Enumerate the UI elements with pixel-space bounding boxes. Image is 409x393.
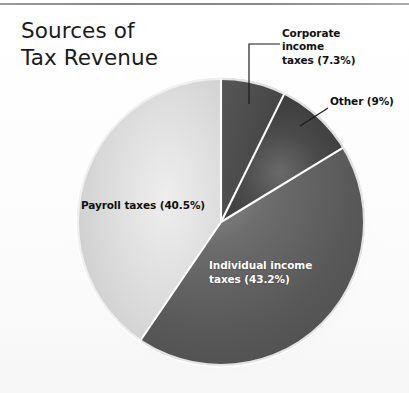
slice-label-other: Other (9%) [330,95,408,108]
slice-label-payroll-taxes: Payroll taxes (40.5%) [75,198,211,212]
slice-label-corporate-income-taxes: Corporate income taxes (7.3%) [282,27,406,67]
slice-label-individual-income-taxes: Individual income taxes (43.2%) [209,258,329,287]
tax-revenue-figure: Sources of Tax Revenue [0,0,409,393]
